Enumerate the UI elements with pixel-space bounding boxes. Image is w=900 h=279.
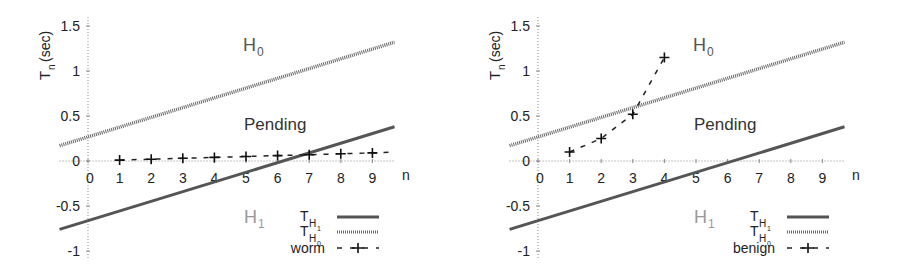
plus-marker <box>209 152 219 162</box>
plus-marker <box>273 151 283 161</box>
pending-region-label: Pending <box>244 115 306 134</box>
svg-text:T: T <box>300 223 309 239</box>
x-tick-label: 7 <box>305 170 313 186</box>
svg-text:T: T <box>750 208 759 224</box>
y-tick-label: 0 <box>522 153 530 169</box>
legend: TH1TH0worm <box>290 208 379 256</box>
x-tick-label: 2 <box>147 170 155 186</box>
chart-svg: 1.510.50-0.5-10123456789nTn(sec)H0Pendin… <box>0 0 450 279</box>
t-h0-threshold-line <box>60 42 395 146</box>
y-tick-label: 0.5 <box>61 108 81 124</box>
x-tick-label: 3 <box>629 170 637 186</box>
svg-text:H: H <box>759 218 766 229</box>
x-tick-label: 8 <box>787 170 795 186</box>
svg-text:1: 1 <box>258 217 265 231</box>
svg-text:1: 1 <box>767 225 771 232</box>
svg-text:T: T <box>36 71 53 80</box>
t-h0-threshold-line <box>510 42 845 146</box>
x-tick-label: 0 <box>86 170 94 186</box>
svg-text:(sec): (sec) <box>487 31 503 62</box>
x-tick-label: 3 <box>179 170 187 186</box>
svg-text:0: 0 <box>707 45 714 59</box>
x-tick-label: 2 <box>597 170 605 186</box>
y-tick-label: 1.5 <box>61 18 81 34</box>
plus-marker <box>565 147 575 157</box>
svg-text:(sec): (sec) <box>37 31 53 62</box>
x-tick-label: 7 <box>755 170 763 186</box>
plus-marker <box>178 153 188 163</box>
y-tick-label: -1 <box>68 243 81 259</box>
x-tick-label: 8 <box>337 170 345 186</box>
y-tick-label: -0.5 <box>56 198 80 214</box>
svg-text:1: 1 <box>317 225 321 232</box>
plus-marker <box>336 149 346 159</box>
svg-text:T: T <box>750 223 759 239</box>
x-tick-label: 9 <box>819 170 827 186</box>
benign-series-line <box>570 58 665 153</box>
y-axis-label: Tn(sec) <box>36 31 57 80</box>
h0-region-label: H <box>243 35 256 55</box>
svg-text:benign: benign <box>733 240 775 256</box>
y-axis-label: Tn(sec) <box>486 31 507 80</box>
x-axis-label: n <box>402 167 410 183</box>
legend: TH1TH0benign <box>733 208 829 256</box>
svg-text:n: n <box>496 64 507 70</box>
y-tick-label: -1 <box>518 243 531 259</box>
chart-svg: 1.510.50-0.5-10123456789nTn(sec)H0Pendin… <box>450 0 900 279</box>
svg-text:H: H <box>309 218 316 229</box>
h0-region-label: H <box>693 35 706 55</box>
x-tick-label: 9 <box>369 170 377 186</box>
plus-marker <box>367 148 377 158</box>
y-tick-label: 1 <box>522 63 530 79</box>
plus-marker <box>115 155 125 165</box>
x-tick-label: 1 <box>116 170 124 186</box>
svg-text:worm: worm <box>290 240 325 256</box>
y-tick-label: 0.5 <box>511 108 531 124</box>
x-tick-label: 1 <box>566 170 574 186</box>
y-tick-label: 0 <box>72 153 80 169</box>
y-tick-label: 1.5 <box>511 18 531 34</box>
x-tick-label: 6 <box>724 170 732 186</box>
svg-text:0: 0 <box>257 45 264 59</box>
benign-chart: 1.510.50-0.5-10123456789nTn(sec)H0Pendin… <box>450 0 900 279</box>
pending-region-label: Pending <box>694 115 756 134</box>
x-axis-label: n <box>852 167 860 183</box>
y-tick-label: -0.5 <box>506 198 530 214</box>
h1-region-label: H <box>244 207 257 227</box>
plus-marker <box>241 152 251 162</box>
h1-region-label: H <box>694 207 707 227</box>
svg-text:T: T <box>300 208 309 224</box>
svg-text:T: T <box>486 71 503 80</box>
plus-marker <box>146 154 156 164</box>
plus-marker <box>659 53 669 63</box>
y-tick-label: 1 <box>72 63 80 79</box>
x-tick-label: 0 <box>536 170 544 186</box>
worm-series-line <box>120 152 395 160</box>
x-tick-label: 6 <box>274 170 282 186</box>
svg-text:1: 1 <box>708 217 715 231</box>
plus-marker <box>628 109 638 119</box>
svg-text:n: n <box>46 64 57 70</box>
worm-chart: 1.510.50-0.5-10123456789nTn(sec)H0Pendin… <box>0 0 450 279</box>
